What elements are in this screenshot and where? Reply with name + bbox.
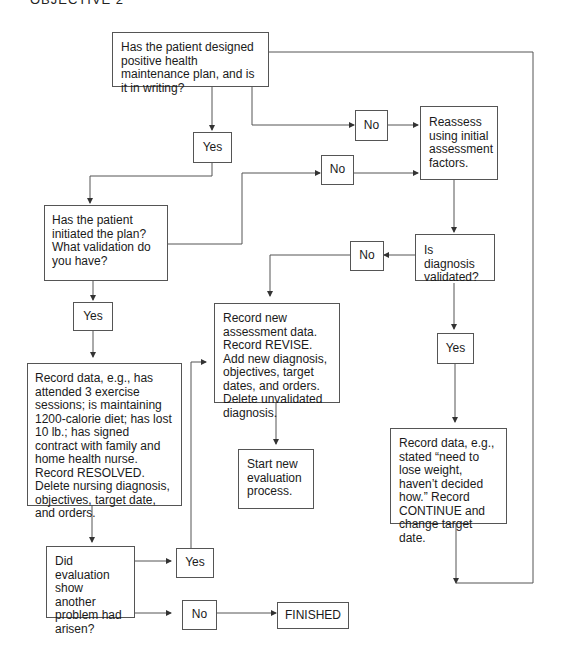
label-yes-another: Yes — [176, 548, 214, 578]
node-patient-designed-plan: Has the patient designed positive health… — [112, 32, 269, 87]
label-no-plan: No — [355, 110, 388, 141]
node-record-resolved: Record data, e.g., has attended 3 exerci… — [27, 363, 182, 506]
label-no-initiated: No — [321, 155, 354, 185]
node-patient-initiated-plan: Has the patient initiated the plan? What… — [44, 205, 168, 281]
node-record-continue: Record data, e.g., stated “need to lose … — [390, 428, 507, 524]
node-start-new-evaluation: Start new evaluation process. — [238, 449, 314, 509]
label-no-another: No — [182, 600, 217, 630]
node-record-revise: Record new assessment data. Record REVIS… — [214, 303, 340, 403]
node-diagnosis-validated: Is diagnosis validated? — [415, 234, 495, 281]
node-reassess: Reassess using initial assessment factor… — [420, 106, 498, 180]
node-another-problem: Did evaluation show another problem had … — [46, 546, 135, 618]
label-yes-plan: Yes — [193, 132, 232, 163]
label-yes-validated: Yes — [437, 333, 474, 364]
label-yes-initiated: Yes — [73, 302, 113, 331]
label-no-validated: No — [350, 241, 384, 271]
node-finished: FINISHED — [277, 602, 349, 629]
